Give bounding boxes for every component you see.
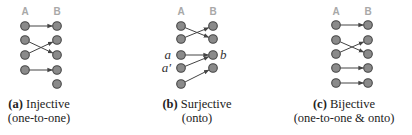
domain-node bbox=[332, 64, 341, 73]
domain-node bbox=[332, 21, 341, 30]
set-b-header: B bbox=[209, 6, 216, 17]
point-label: a′ bbox=[162, 60, 172, 75]
domain-node bbox=[177, 35, 186, 44]
domain-node bbox=[177, 22, 186, 31]
caption-title: Injective bbox=[26, 97, 70, 111]
codomain-node bbox=[209, 22, 218, 31]
caption-bijective: (c) Bijective (one-to-one & onto) bbox=[288, 97, 400, 125]
codomain-node bbox=[53, 22, 62, 31]
mapping-arrow bbox=[185, 70, 209, 82]
domain-node bbox=[21, 22, 30, 31]
set-b-header: B bbox=[364, 6, 371, 17]
domain-node bbox=[177, 80, 186, 89]
codomain-node bbox=[53, 66, 62, 75]
set-b-header: B bbox=[53, 6, 60, 17]
domain-node bbox=[332, 50, 341, 59]
panel-injective: A B bbox=[21, 6, 62, 88]
domain-node bbox=[332, 79, 341, 88]
codomain-node bbox=[364, 36, 373, 45]
set-a-header: A bbox=[332, 6, 339, 17]
caption-title: Surjective bbox=[181, 97, 232, 111]
caption-tag: (c) bbox=[313, 97, 327, 111]
codomain-node bbox=[364, 79, 373, 88]
domain-node bbox=[21, 66, 30, 75]
caption-subtitle: (one-to-one & onto) bbox=[288, 111, 400, 125]
domain-node bbox=[177, 64, 186, 73]
caption-tag: (a) bbox=[8, 97, 23, 111]
codomain-node bbox=[364, 64, 373, 73]
caption-surjective: (b) Surjective (onto) bbox=[152, 97, 242, 125]
codomain-node bbox=[53, 51, 62, 60]
caption-title: Bijective bbox=[330, 97, 375, 111]
caption-subtitle: (one-to-one) bbox=[0, 111, 80, 125]
domain-node bbox=[177, 51, 186, 60]
codomain-node bbox=[209, 35, 218, 44]
caption-tag: (b) bbox=[162, 97, 177, 111]
caption-injective: (a) Injective (one-to-one) bbox=[0, 97, 80, 125]
domain-node bbox=[21, 36, 30, 45]
codomain-node bbox=[364, 50, 373, 59]
point-label: b bbox=[220, 47, 227, 62]
set-a-header: A bbox=[21, 6, 28, 17]
codomain-node bbox=[53, 80, 62, 89]
codomain-node bbox=[364, 21, 373, 30]
mapping-arrow bbox=[185, 57, 209, 67]
codomain-node bbox=[53, 36, 62, 45]
caption-subtitle: (onto) bbox=[152, 111, 242, 125]
domain-node bbox=[332, 36, 341, 45]
panel-bijective: A B bbox=[332, 6, 373, 87]
set-a-header: A bbox=[177, 6, 184, 17]
codomain-node bbox=[209, 51, 218, 60]
codomain-node bbox=[209, 64, 218, 73]
domain-node bbox=[21, 51, 30, 60]
panel-surjective: A B aa′b bbox=[162, 6, 227, 88]
